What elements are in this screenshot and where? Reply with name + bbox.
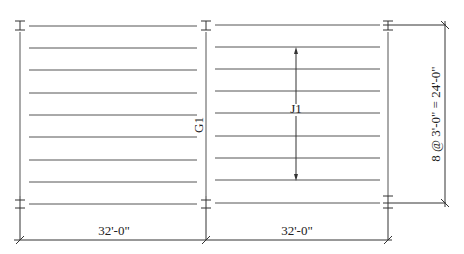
joist-label: J1 — [290, 101, 302, 116]
girder-lines — [20, 32, 388, 196]
column-icon — [15, 196, 25, 240]
column-icon — [15, 21, 25, 30]
joists-left-bay — [29, 26, 197, 204]
girder-label: G1 — [191, 117, 206, 133]
column-icon — [201, 21, 211, 30]
bottom-dimension — [14, 236, 392, 244]
column-icon — [383, 196, 393, 240]
column-icon — [201, 196, 211, 240]
bay-left-dimension: 32'-0" — [98, 223, 129, 238]
joist-spacing-dimension: 8 @ 3'-0" = 24'-0" — [428, 66, 443, 161]
joists-right-bay — [215, 25, 446, 203]
bay-right-dimension: 32'-0" — [281, 223, 312, 238]
arrow-up-icon — [294, 47, 298, 54]
column-icon — [383, 21, 393, 30]
framing-plan-drawing: J1 G1 32'-0" 32'-0" 8 @ 3'-0" = 24'-0" — [0, 0, 464, 254]
